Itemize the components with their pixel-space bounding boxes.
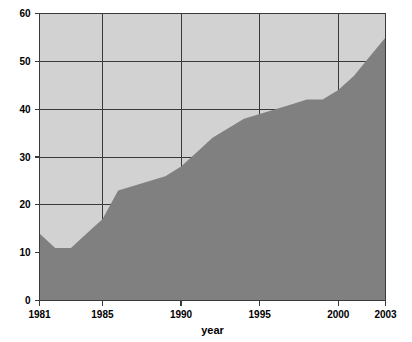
x-axis-title: year xyxy=(201,324,224,336)
y-tick-label: 10 xyxy=(19,247,31,258)
x-tick-label: 1981 xyxy=(28,309,51,320)
y-tick-label: 50 xyxy=(19,56,31,67)
y-tick-label: 0 xyxy=(25,295,31,306)
x-tick-label: 2000 xyxy=(327,309,350,320)
x-tick-label: 2003 xyxy=(374,309,397,320)
y-tick-label: 20 xyxy=(19,199,31,210)
y-tick-label: 40 xyxy=(19,104,31,115)
area-chart: 0102030405060 198119851990199520002003 y… xyxy=(0,0,412,342)
x-tick-label: 1985 xyxy=(91,309,114,320)
x-tick-label: 1995 xyxy=(249,309,272,320)
y-tick-label: 60 xyxy=(19,8,31,19)
y-tick-label: 30 xyxy=(19,152,31,163)
chart-container: 0102030405060 198119851990199520002003 y… xyxy=(0,0,412,342)
x-tick-label: 1990 xyxy=(170,309,193,320)
